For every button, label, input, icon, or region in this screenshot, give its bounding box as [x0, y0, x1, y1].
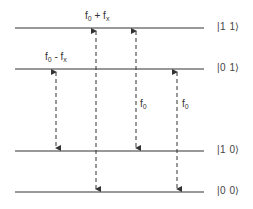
energy-diagram-canvas	[0, 0, 253, 209]
label-f0-right: f0	[182, 98, 189, 110]
ket-01: |0 1⟩	[217, 62, 240, 73]
ket-11: |1 1⟩	[217, 21, 240, 32]
label-f0-left: f0	[140, 98, 147, 110]
label-f0-minus-fx: f0 - fx	[45, 51, 67, 63]
label-f0-plus-fx: f0 + fx	[85, 10, 109, 22]
ket-10: |1 0⟩	[217, 144, 240, 155]
ket-00: |0 0⟩	[217, 185, 240, 196]
